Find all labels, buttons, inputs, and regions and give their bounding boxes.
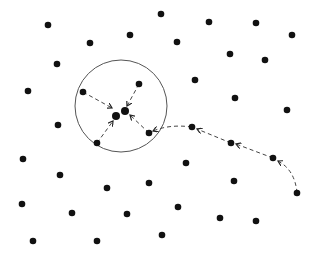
particle-dot bbox=[284, 107, 291, 114]
motion-arrow bbox=[97, 121, 113, 143]
particle-dot bbox=[192, 77, 199, 84]
path-particle-dot bbox=[189, 124, 196, 131]
motion-arrow bbox=[197, 129, 231, 143]
particle-dot bbox=[94, 238, 101, 245]
inner-particle-dot bbox=[94, 140, 101, 147]
dots-group bbox=[19, 11, 301, 245]
motion-arrow bbox=[153, 126, 192, 131]
arrows-group bbox=[83, 84, 297, 193]
particle-dot bbox=[20, 156, 27, 163]
particle-dot bbox=[183, 160, 190, 167]
particle-dot bbox=[87, 40, 94, 47]
inner-particle-dot bbox=[80, 89, 87, 96]
boundary-circle bbox=[75, 60, 167, 152]
cluster-center-dot bbox=[112, 112, 120, 120]
particle-dot bbox=[206, 19, 213, 26]
particle-dot bbox=[253, 20, 260, 27]
particle-dot bbox=[159, 232, 166, 239]
motion-arrow bbox=[127, 84, 139, 106]
particle-dot bbox=[232, 95, 239, 102]
particle-dot bbox=[19, 201, 26, 208]
inner-particle-dot bbox=[136, 81, 143, 88]
particle-dot bbox=[127, 32, 134, 39]
particle-diagram bbox=[0, 0, 319, 258]
particle-dot bbox=[253, 218, 260, 225]
motion-arrow bbox=[236, 144, 273, 158]
motion-arrow bbox=[83, 92, 112, 108]
particle-dot bbox=[45, 22, 52, 29]
particle-dot bbox=[57, 172, 64, 179]
path-particle-dot bbox=[294, 190, 301, 197]
particle-dot bbox=[146, 180, 153, 187]
particle-dot bbox=[262, 57, 269, 64]
particle-dot bbox=[25, 88, 32, 95]
path-particle-dot bbox=[270, 155, 277, 162]
particle-dot bbox=[55, 122, 62, 129]
particle-dot bbox=[217, 215, 224, 222]
particle-dot bbox=[289, 32, 296, 39]
cluster-center-dot bbox=[121, 107, 129, 115]
particle-dot bbox=[175, 204, 182, 211]
particle-dot bbox=[104, 185, 111, 192]
particle-dot bbox=[30, 238, 37, 245]
particle-dot bbox=[227, 51, 234, 58]
inner-particle-dot bbox=[146, 130, 153, 137]
particle-dot bbox=[124, 211, 131, 218]
motion-arrow bbox=[130, 115, 149, 133]
particle-dot bbox=[54, 61, 61, 68]
particle-dot bbox=[69, 210, 76, 217]
particle-dot bbox=[231, 178, 238, 185]
particle-dot bbox=[158, 11, 165, 18]
particle-dot bbox=[174, 39, 181, 46]
motion-arrow bbox=[278, 161, 297, 193]
path-particle-dot bbox=[228, 140, 235, 147]
